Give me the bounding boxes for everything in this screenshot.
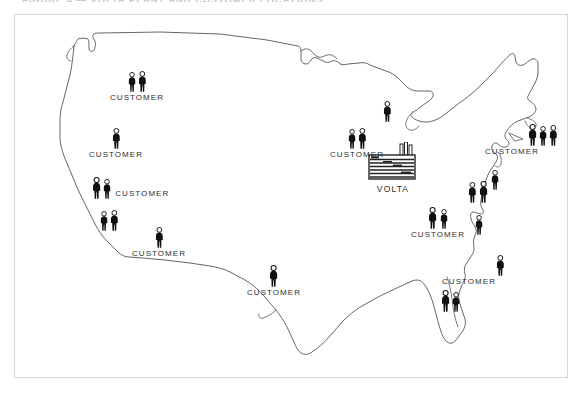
customer-marker[interactable]	[490, 170, 500, 190]
customer-figure-group	[154, 227, 165, 248]
person-icon	[527, 124, 538, 146]
person-icon	[440, 290, 451, 312]
customer-figure-group	[474, 215, 484, 235]
customer-figure-group	[427, 207, 448, 229]
customer-marker[interactable]	[467, 181, 489, 203]
person-icon	[467, 182, 478, 203]
person-icon	[102, 179, 112, 199]
customer-marker[interactable]: CUSTOMER	[110, 71, 164, 102]
customer-marker[interactable]	[99, 210, 120, 231]
customer-figure-group	[382, 101, 393, 122]
person-icon	[474, 215, 484, 235]
customer-marker[interactable]: CUSTOMER	[91, 177, 169, 199]
person-icon	[357, 128, 368, 149]
person-icon	[99, 211, 109, 231]
person-icon	[111, 128, 122, 149]
customer-label: CUSTOMER	[330, 151, 384, 159]
customer-label: CUSTOMER	[442, 278, 496, 286]
person-icon	[548, 125, 559, 146]
customer-marker[interactable]	[474, 215, 484, 235]
person-icon	[154, 227, 165, 248]
customer-label: CUSTOMER	[89, 151, 143, 159]
customer-figure-group	[127, 71, 148, 92]
figure-frame: VOLTA CUSTOMER CUSTOMER CUSTOMER CUSTOME…	[14, 14, 568, 378]
customer-figure-group	[490, 170, 500, 190]
person-icon	[109, 210, 120, 231]
customer-figure-group	[495, 255, 506, 276]
person-icon	[478, 181, 489, 203]
person-icon	[538, 126, 548, 146]
customer-marker[interactable]: CUSTOMER	[132, 227, 186, 258]
customer-figure-group	[91, 177, 112, 199]
customer-label: CUSTOMER	[110, 94, 164, 102]
customer-label: CUSTOMER	[247, 289, 301, 297]
customer-marker[interactable]: CUSTOMER	[411, 207, 465, 239]
customer-figure-group	[99, 210, 120, 231]
customer-marker[interactable]: CUSTOMER	[247, 265, 301, 297]
customer-marker[interactable]	[382, 101, 393, 122]
customer-marker[interactable]: CUSTOMER	[499, 124, 584, 156]
person-icon	[268, 265, 279, 287]
customer-label: CUSTOMER	[132, 250, 186, 258]
customer-label: CUSTOMER	[411, 231, 465, 239]
person-icon	[382, 101, 393, 122]
person-icon	[91, 177, 102, 199]
person-icon	[451, 292, 461, 312]
figure-title: FIGURE 4 — VOLTA PLANT AND CUSTOMER LOCA…	[22, 0, 323, 2]
customer-marker[interactable]: CUSTOMER	[89, 128, 143, 159]
customer-figure-group	[440, 290, 461, 312]
person-icon	[127, 72, 137, 92]
customer-marker[interactable]: CUSTOMER	[330, 128, 384, 159]
customer-figure-group	[527, 124, 559, 146]
customer-marker[interactable]: CUSTOMER	[456, 255, 544, 286]
customer-marker[interactable]	[440, 290, 461, 312]
customer-figure-group	[467, 181, 489, 203]
customer-figure-group	[268, 265, 279, 287]
person-icon	[427, 207, 438, 229]
volta-label: VOLTA	[377, 184, 409, 194]
person-icon	[490, 170, 500, 190]
person-icon	[137, 71, 148, 92]
person-icon	[347, 129, 357, 149]
customer-figure-group	[347, 128, 368, 149]
customer-label: CUSTOMER	[115, 190, 169, 198]
person-icon	[495, 255, 506, 276]
customer-label: CUSTOMER	[485, 148, 539, 156]
us-map: VOLTA CUSTOMER CUSTOMER CUSTOMER CUSTOME…	[15, 15, 569, 379]
customer-figure-group	[111, 128, 122, 149]
person-icon	[439, 209, 449, 229]
